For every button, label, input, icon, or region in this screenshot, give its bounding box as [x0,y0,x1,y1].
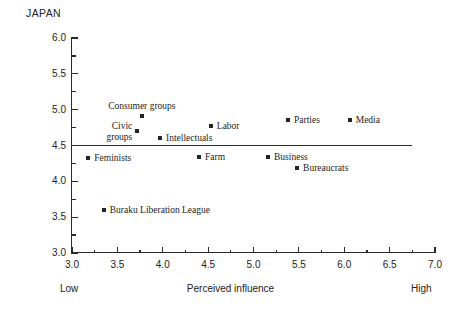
y-axis-minor-tick [72,91,76,92]
data-point-marker[interactable] [197,155,201,159]
y-axis-tick [72,181,78,182]
data-point-marker[interactable] [86,156,90,160]
y-axis-tick-label: 3.0 [32,247,66,258]
data-point-label: Consumer groups [108,101,175,112]
x-axis-tick-label: 4.0 [143,259,183,270]
x-axis-minor-tick [276,250,277,254]
x-axis-minor-tick [139,250,140,254]
x-axis-low-label: Low [60,283,78,294]
x-axis-tick-label: 3.5 [97,259,137,270]
x-axis-tick-label: 5.5 [279,259,319,270]
data-point-label: Bureaucrats [303,163,348,174]
data-point-marker[interactable] [158,136,162,140]
x-axis-tick [253,247,254,253]
data-point-label: Feminists [94,152,131,163]
chart-title: JAPAN [26,7,61,19]
x-axis-minor-tick [321,250,322,254]
y-axis-tick-label: 3.5 [32,211,66,222]
y-axis-tick-label: 4.5 [32,140,66,151]
data-point-label: Business [274,152,308,163]
y-axis-tick [72,37,78,38]
x-axis-tick [208,247,209,253]
data-point-marker[interactable] [348,118,352,122]
data-point-marker[interactable] [102,208,106,212]
data-point-label: Media [356,115,380,126]
x-axis-minor-tick [412,250,413,254]
data-point-label: Parties [294,115,320,126]
x-axis-tick-label: 5.0 [234,259,274,270]
x-axis-tick [71,247,72,253]
x-axis-high-label: High [411,283,432,294]
x-axis-tick-label: 4.5 [188,259,228,270]
data-point-label: Civicgroups [106,121,132,142]
y-axis-minor-tick [72,127,76,128]
y-axis-tick-label: 4.0 [32,175,66,186]
data-point-label: Intellectuals [166,132,212,143]
x-axis-tick [117,247,118,253]
x-axis-minor-tick [230,250,231,254]
data-point-label: Buraku Liberation League [110,205,210,216]
y-axis-tick-label: 5.0 [32,104,66,115]
x-axis-tick-label: 6.5 [370,259,410,270]
scatter-chart: JAPAN 3.03.54.04.55.05.56.03.03.54.04.55… [0,0,461,310]
data-point-marker[interactable] [209,124,213,128]
x-axis-minor-tick [94,250,95,254]
y-axis-minor-tick [72,163,76,164]
x-axis-tick-label: 6.0 [324,259,364,270]
y-axis-minor-tick [72,234,76,235]
y-axis-tick-label: 5.5 [32,68,66,79]
data-point-marker[interactable] [286,118,290,122]
reference-line [72,145,412,146]
x-axis-tick [298,247,299,253]
data-point-marker[interactable] [140,114,144,118]
data-point-marker[interactable] [266,155,270,159]
x-axis-tick [434,247,435,253]
y-axis-minor-tick [72,199,76,200]
data-point-label: Labor [217,121,240,132]
data-point-label: Farm [205,152,225,163]
data-point-marker[interactable] [135,129,139,133]
x-axis-tick [162,247,163,253]
data-point-marker[interactable] [295,166,299,170]
y-axis-minor-tick [72,55,76,56]
x-axis-minor-tick [366,250,367,254]
y-axis-tick [72,109,78,110]
x-axis-tick [344,247,345,253]
x-axis-tick [389,247,390,253]
y-axis-tick [72,252,78,253]
y-axis-tick [72,73,78,74]
y-axis-tick [72,217,78,218]
x-axis-tick-label: 3.0 [52,259,92,270]
y-axis-tick-label: 6.0 [32,32,66,43]
x-axis-minor-tick [185,250,186,254]
x-axis-tick-label: 7.0 [415,259,455,270]
